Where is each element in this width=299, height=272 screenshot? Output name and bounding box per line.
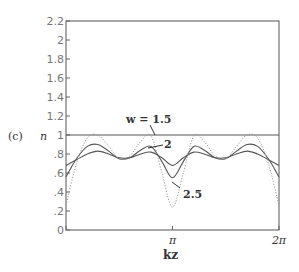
y-tick-label: .6	[54, 167, 65, 180]
annotation-w25-arrow	[172, 182, 180, 188]
chart: 0.2.4.6.811.21.41.61.822.2 π2π (c) n kz …	[0, 0, 299, 272]
y-tick-label: .8	[54, 148, 65, 161]
y-tick-label: 1.4	[47, 91, 65, 104]
y-tick-label: 1.2	[47, 110, 65, 123]
y-tick-label: .2	[54, 205, 65, 218]
y-axis-label: n	[40, 130, 47, 143]
y-tick-label: 1.8	[47, 53, 65, 66]
series-line	[66, 151, 279, 165]
plot-frame	[66, 21, 279, 230]
series-lines	[66, 134, 279, 207]
annotation-w15: w = 1.5	[125, 113, 171, 126]
annotation-w15-arrow	[150, 125, 155, 135]
x-axis-ticks: π2π	[66, 226, 287, 247]
series-line	[66, 144, 279, 178]
panel-label: (c)	[8, 130, 23, 143]
y-tick-label: 0	[57, 224, 64, 237]
y-tick-label: 2	[57, 34, 64, 47]
x-tick-label: π	[168, 234, 177, 247]
annotation-w2: 2	[164, 138, 172, 151]
y-tick-label: .4	[54, 186, 65, 199]
y-tick-label: 1	[57, 129, 64, 142]
annotation-w25: 2.5	[183, 188, 202, 201]
x-axis-label: kz	[163, 248, 178, 262]
y-tick-label: 2.2	[47, 15, 65, 28]
y-tick-label: 1.6	[47, 72, 65, 85]
x-tick-label: 2π	[271, 234, 287, 247]
